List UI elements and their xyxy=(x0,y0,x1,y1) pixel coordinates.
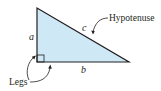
hypotenuse-label: Hypotenuse xyxy=(109,13,154,23)
right-triangle-diagram: a b c Hypotenuse Legs xyxy=(0,0,161,91)
legs-arrow-a xyxy=(27,57,34,80)
hypotenuse-arrow xyxy=(93,18,108,32)
legs-arrow-b xyxy=(30,68,50,82)
side-label-a: a xyxy=(29,31,34,42)
side-label-c: c xyxy=(82,22,87,33)
legs-label: Legs xyxy=(9,77,28,87)
hypotenuse-arrowhead-icon xyxy=(91,31,95,35)
legs-arrowhead-b-icon xyxy=(48,65,52,69)
side-label-b: b xyxy=(81,64,86,75)
